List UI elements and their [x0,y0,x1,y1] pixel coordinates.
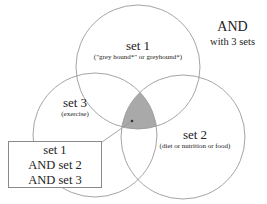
callout-line-3: AND set 3 [9,173,101,188]
title-line-2: with 3 sets [210,36,255,47]
set-3-name: set 3 [45,96,105,109]
callout-pointer [102,121,132,142]
set-1-label: set 1 ("grey hound*" or greyhound*) [88,39,188,61]
pointer-dot [131,120,134,123]
set-2-name: set 2 [150,128,240,141]
set-2-label: set 2 (diet or nutrition or food) [150,128,240,150]
set-1-name: set 1 [88,39,188,52]
title-line-1: AND [210,19,255,35]
callout-line-2: AND set 2 [9,158,101,173]
set-2-terms: (diet or nutrition or food) [150,143,240,150]
callout-line-1: set 1 [9,143,101,158]
set-1-terms: ("grey hound*" or greyhound*) [88,54,188,61]
callout-box: set 1 AND set 2 AND set 3 [8,141,102,188]
diagram-title: AND with 3 sets [210,19,255,47]
set-3-label: set 3 (exercise) [45,96,105,118]
set-3-terms: (exercise) [45,111,105,118]
